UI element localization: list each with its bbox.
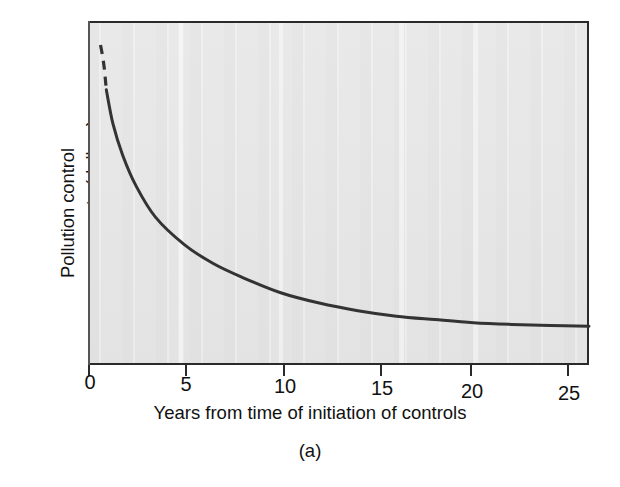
figure-caption: (a) bbox=[0, 440, 620, 462]
x-tick-label-15: 15 bbox=[371, 378, 393, 398]
x-tick-15 bbox=[380, 365, 382, 376]
y-axis-label-line-1: Pollution control bbox=[55, 148, 80, 278]
x-tick-label-20: 20 bbox=[461, 381, 483, 401]
curve-solid-segment bbox=[106, 90, 589, 326]
plot-panel bbox=[88, 21, 589, 365]
x-tick-label-25: 25 bbox=[558, 383, 580, 403]
x-tick-label-5: 5 bbox=[180, 374, 191, 394]
x-tick-label-10: 10 bbox=[274, 376, 296, 396]
x-tick-label-0: 0 bbox=[84, 372, 95, 392]
curve-dashed-segment bbox=[101, 45, 107, 90]
x-tick-25 bbox=[567, 365, 569, 376]
x-axis-label: Years from time of initiation of control… bbox=[0, 402, 620, 424]
cost-decay-curve bbox=[88, 21, 589, 365]
figure-a: Pollution control per year costs (dollar… bbox=[0, 0, 620, 487]
x-tick-20 bbox=[470, 365, 472, 376]
